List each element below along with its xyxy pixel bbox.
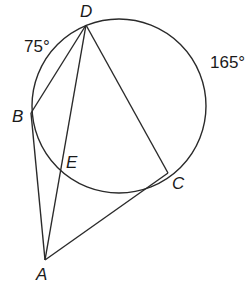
- chord-dc: [86, 25, 168, 173]
- arc-label-dc: 165°: [210, 53, 245, 72]
- point-label-a: A: [35, 265, 47, 284]
- secant-da: [45, 25, 86, 260]
- point-label-b: B: [12, 107, 23, 126]
- geometry-diagram: D B E C A 75° 165°: [0, 0, 250, 297]
- arc-label-bd: 75°: [24, 37, 50, 56]
- point-label-e: E: [66, 153, 78, 172]
- point-label-d: D: [80, 2, 92, 21]
- circle: [32, 19, 206, 193]
- tangent-ba: [31, 113, 45, 260]
- point-label-c: C: [172, 174, 185, 193]
- tangent-ac: [45, 173, 168, 260]
